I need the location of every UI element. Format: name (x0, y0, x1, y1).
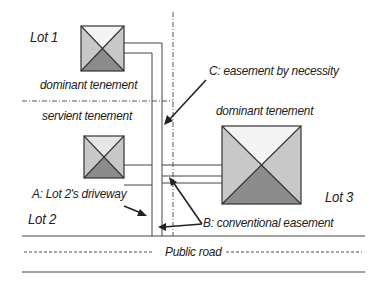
easement-c-label: C: easement by necessity (209, 63, 339, 78)
easement-c-path (124, 43, 162, 236)
servient-tenement-label: servient tenement (42, 108, 132, 123)
house-lot1-icon (81, 26, 124, 71)
lot2-label: Lot 2 (28, 210, 56, 227)
house-lot3-icon (222, 126, 301, 204)
easement-b-label: B: conventional easement (203, 215, 333, 230)
dominant-tenement-lot1-label: dominant tenement (40, 77, 137, 92)
lot3-label: Lot 3 (325, 188, 353, 205)
easement-a-path (124, 165, 152, 185)
dominant-tenement-lot3-label: dominant tenement (216, 103, 313, 118)
arrow-a-icon (124, 206, 147, 216)
house-lot2-icon (84, 136, 124, 178)
lot1-label: Lot 1 (30, 28, 58, 45)
arrow-c-icon (164, 80, 206, 125)
arrow-b-icon (158, 177, 202, 231)
easement-a-label: A: Lot 2's driveway (32, 186, 126, 201)
public-road-label: Public road (165, 244, 222, 259)
